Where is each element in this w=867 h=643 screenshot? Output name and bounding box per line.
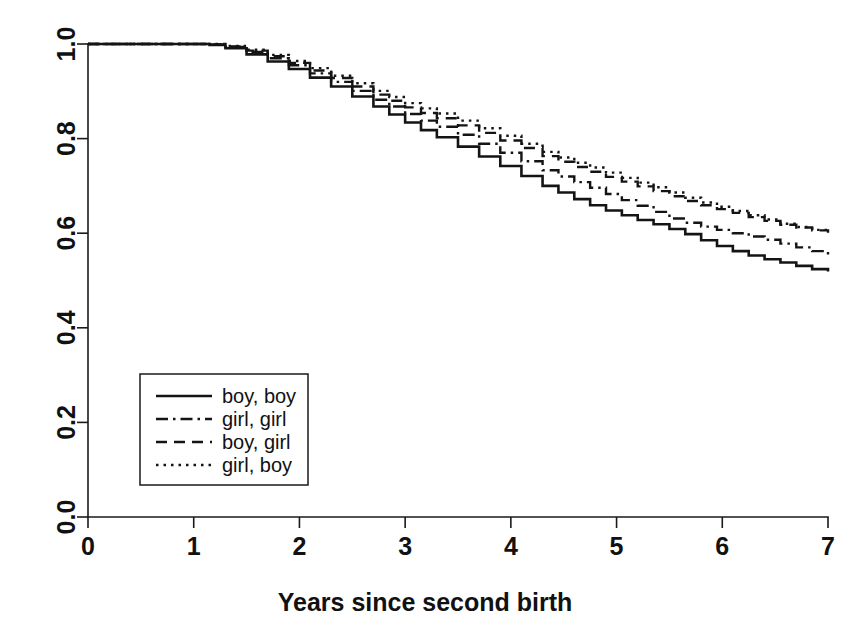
x-tick-label: 1	[187, 532, 201, 560]
x-tick-label: 7	[821, 532, 835, 560]
y-tick-label: 1.0	[52, 27, 80, 62]
x-tick-label: 5	[610, 532, 624, 560]
legend-label-boy-boy: boy, boy	[222, 385, 296, 407]
x-tick-label: 3	[398, 532, 412, 560]
survival-plot: 0.00.20.40.60.81.0 01234567 boy, boygirl…	[0, 0, 867, 643]
y-tick-label: 0.2	[52, 405, 80, 440]
x-tick-label: 2	[292, 532, 306, 560]
legend-label-girl-boy: girl, boy	[222, 454, 292, 476]
x-tick-label: 4	[504, 532, 518, 560]
y-tick-label: 0.8	[52, 121, 80, 156]
y-tick-label: 0.4	[52, 310, 80, 345]
y-tick-label: 0.6	[52, 216, 80, 251]
y-tick-label: 0.0	[52, 500, 80, 535]
chart-legend: boy, boygirl, girlboy, girlgirl, boy	[140, 374, 308, 485]
x-axis-title: Years since second birth	[278, 588, 573, 616]
x-tick-label: 0	[81, 532, 95, 560]
x-tick-label: 6	[715, 532, 729, 560]
plot-background	[0, 0, 867, 643]
legend-label-boy-girl: boy, girl	[222, 431, 291, 453]
legend-label-girl-girl: girl, girl	[222, 408, 286, 430]
chart-canvas: 0.00.20.40.60.81.0 01234567 boy, boygirl…	[0, 0, 867, 643]
